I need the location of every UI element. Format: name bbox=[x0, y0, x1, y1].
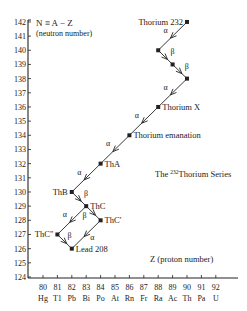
nuclide-point bbox=[99, 162, 103, 166]
nuclide-point bbox=[171, 62, 175, 66]
nuclide-point bbox=[156, 105, 160, 109]
x-tick-label: 89 bbox=[169, 283, 177, 292]
nuclide-point bbox=[99, 218, 103, 222]
element-symbol: Pa bbox=[197, 294, 205, 303]
y-tick-label: 127 bbox=[14, 230, 26, 239]
thorium-decay-chart: 1241251261271281291301311321331341351361… bbox=[0, 0, 247, 311]
x-tick-label: 81 bbox=[53, 283, 61, 292]
chart-title: The 232Thorium Series bbox=[155, 169, 231, 179]
title-suffix: Thorium Series bbox=[179, 169, 232, 179]
decay-type-label: β bbox=[84, 189, 88, 198]
y-tick-label: 137 bbox=[14, 89, 26, 98]
y-tick-label: 131 bbox=[14, 174, 26, 183]
y-tick-label: 133 bbox=[14, 145, 26, 154]
nuclide-label: Thorium 232 bbox=[138, 17, 183, 27]
x-tick-label: 80 bbox=[39, 283, 47, 292]
decay-type-label: α bbox=[90, 233, 95, 242]
title-superscript: 232 bbox=[170, 169, 179, 175]
nuclide-point bbox=[127, 133, 131, 137]
x-tick-label: 86 bbox=[125, 283, 133, 292]
y-tick-label: 125 bbox=[14, 259, 26, 268]
y-tick-label: 139 bbox=[14, 60, 26, 69]
element-symbol: Hg bbox=[38, 294, 48, 303]
nuclide-point bbox=[55, 232, 59, 236]
element-symbol: Rn bbox=[125, 294, 134, 303]
title-prefix: The bbox=[155, 169, 170, 179]
element-symbol: Ac bbox=[168, 294, 178, 303]
decay-type-label: β bbox=[170, 47, 174, 56]
nuclide-point bbox=[70, 247, 74, 251]
x-tick-label: 82 bbox=[68, 283, 76, 292]
nuclide-label: Lead 208 bbox=[76, 244, 108, 254]
y-tick-label: 138 bbox=[14, 75, 26, 84]
decay-type-label: α bbox=[164, 26, 169, 35]
element-symbol: T1 bbox=[53, 294, 62, 303]
nuclide-label: ThA bbox=[105, 159, 121, 169]
nuclide-label: Thorium X bbox=[162, 102, 200, 112]
y-tick-label: 129 bbox=[14, 202, 26, 211]
element-symbol: At bbox=[111, 294, 120, 303]
element-symbol: Pb bbox=[68, 294, 76, 303]
nuclide-label: ThC" bbox=[35, 229, 54, 239]
element-symbol: Ra bbox=[154, 294, 163, 303]
y-tick-label: 140 bbox=[14, 46, 26, 55]
y-axis-label: N ≡ A − Z bbox=[36, 18, 73, 28]
decay-line bbox=[72, 164, 101, 192]
nuclide-point bbox=[156, 48, 160, 52]
y-tick-label: 128 bbox=[14, 216, 26, 225]
y-tick-label: 136 bbox=[14, 103, 26, 112]
nuclide-point bbox=[84, 204, 88, 208]
nuclide-points: Thorium 232Thorium XThorium emanationThA… bbox=[35, 17, 202, 254]
y-tick-label: 124 bbox=[14, 273, 26, 282]
element-symbol: Po bbox=[96, 294, 104, 303]
decay-type-label: β bbox=[82, 211, 86, 220]
y-tick-label: 142 bbox=[14, 18, 26, 27]
decay-line bbox=[57, 206, 86, 234]
y-tick-label: 135 bbox=[14, 117, 26, 126]
nuclide-label: ThC bbox=[90, 201, 105, 211]
y-tick-label: 134 bbox=[14, 131, 26, 140]
nuclide-label: ThC' bbox=[105, 215, 122, 225]
nuclide-point bbox=[70, 190, 74, 194]
decay-type-label: β bbox=[68, 231, 72, 240]
x-tick-label: 88 bbox=[154, 283, 162, 292]
y-tick-label: 141 bbox=[14, 32, 26, 41]
x-tick-label: 83 bbox=[82, 283, 90, 292]
element-symbol: U bbox=[213, 294, 219, 303]
x-tick-label: 84 bbox=[97, 283, 105, 292]
decay-type-label: α bbox=[164, 83, 169, 92]
y-tick-label: 130 bbox=[14, 188, 26, 197]
nuclide-label: ThB bbox=[53, 187, 68, 197]
nuclide-label: Thorium emanation bbox=[133, 130, 201, 140]
y-tick-label: 132 bbox=[14, 160, 26, 169]
y-axis-label-sub: (neutron number) bbox=[36, 29, 93, 38]
x-tick-label: 85 bbox=[111, 283, 119, 292]
x-tick-label: 87 bbox=[140, 283, 148, 292]
decay-type-label: α bbox=[135, 111, 140, 120]
decay-type-label: α bbox=[106, 139, 111, 148]
element-symbol: Fr bbox=[140, 294, 147, 303]
nuclide-point bbox=[185, 20, 189, 24]
decay-type-label: β bbox=[185, 62, 189, 71]
x-axis-label: Z (proton number) bbox=[150, 254, 213, 264]
decay-diagram-canvas: 1241251261271281291301311321331341351361… bbox=[0, 0, 247, 311]
element-symbol: Th bbox=[183, 294, 192, 303]
x-tick-label: 92 bbox=[212, 283, 220, 292]
element-symbol: Bi bbox=[82, 294, 90, 303]
nuclide-point bbox=[185, 77, 189, 81]
y-tick-label: 126 bbox=[14, 245, 26, 254]
x-tick-label: 91 bbox=[197, 283, 205, 292]
x-tick-label: 90 bbox=[183, 283, 191, 292]
decay-type-label: α bbox=[77, 168, 82, 177]
decay-type-label: α bbox=[63, 210, 68, 219]
